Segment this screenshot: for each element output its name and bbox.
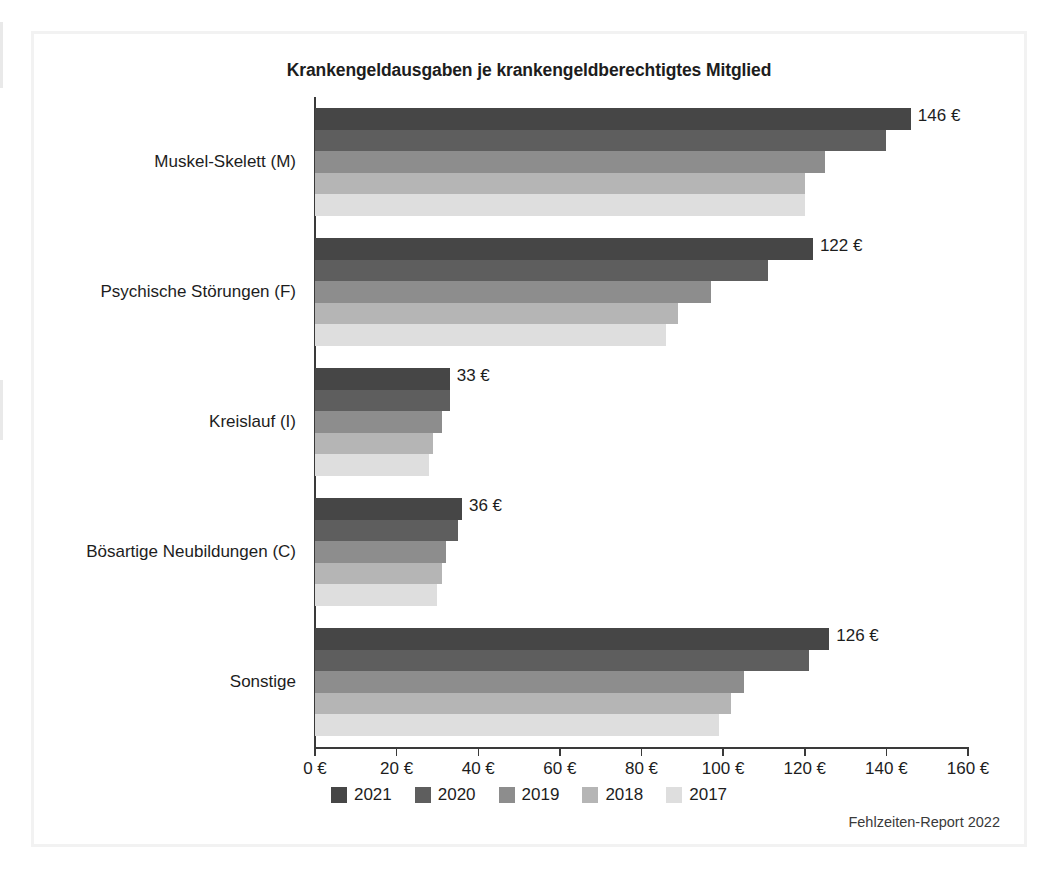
bar-row: 126 €	[315, 628, 968, 650]
bar-row	[315, 281, 968, 303]
bar-group: 122 €	[315, 238, 968, 346]
chart-title: Krankengeldausgaben je krankengeldberech…	[34, 60, 1024, 81]
x-axis-tick-label: 100 €	[702, 759, 745, 779]
page-edge-rule	[0, 380, 3, 440]
bar-2018	[315, 563, 442, 585]
bar-group: 126 €	[315, 628, 968, 736]
bar-row	[315, 671, 968, 693]
legend-item-2018[interactable]: 2018	[582, 785, 643, 805]
legend-item-2017[interactable]: 2017	[666, 785, 727, 805]
legend-swatch-icon	[666, 787, 682, 803]
bar-row	[315, 584, 968, 606]
bar-2017	[315, 714, 719, 736]
bar-row	[315, 563, 968, 585]
bar-2019	[315, 411, 442, 433]
x-axis-tick-label: 160 €	[947, 759, 990, 779]
bar-2019	[315, 281, 711, 303]
bar-2019	[315, 541, 446, 563]
bar-row	[315, 650, 968, 672]
bar-2018	[315, 433, 433, 455]
legend-item-2020[interactable]: 2020	[415, 785, 476, 805]
x-axis-tick-label: 140 €	[865, 759, 908, 779]
legend-item-2021[interactable]: 2021	[331, 785, 392, 805]
legend-label: 2017	[689, 785, 727, 805]
bar-row	[315, 411, 968, 433]
bar-2021	[315, 238, 813, 260]
bar-2019	[315, 671, 744, 693]
bar-row	[315, 173, 968, 195]
bar-2018	[315, 303, 678, 325]
category-label: Muskel-Skelett (M)	[154, 152, 296, 172]
chart-legend: 20212020201920182017	[34, 785, 1024, 805]
legend-label: 2021	[354, 785, 392, 805]
bar-row: 36 €	[315, 498, 968, 520]
x-axis-tick	[559, 747, 561, 756]
bar-2018	[315, 693, 731, 715]
bar-row	[315, 324, 968, 346]
legend-swatch-icon	[331, 787, 347, 803]
bar-row	[315, 693, 968, 715]
bar-group: 36 €	[315, 498, 968, 606]
category-axis-labels: Muskel-Skelett (M)Psychische Störungen (…	[34, 97, 296, 747]
bar-group: 33 €	[315, 368, 968, 476]
bar-2020	[315, 650, 809, 672]
bar-row	[315, 260, 968, 282]
bar-row	[315, 520, 968, 542]
bar-row: 33 €	[315, 368, 968, 390]
bar-row	[315, 390, 968, 412]
bar-row	[315, 130, 968, 152]
x-axis-tick-label: 120 €	[783, 759, 826, 779]
x-axis-tick	[314, 747, 316, 756]
bar-value-label: 126 €	[829, 626, 879, 646]
bar-2021	[315, 628, 829, 650]
bar-row	[315, 541, 968, 563]
bar-row	[315, 151, 968, 173]
figure-page: Krankengeldausgaben je krankengeldberech…	[0, 0, 1052, 880]
bar-2017	[315, 324, 666, 346]
bar-row	[315, 433, 968, 455]
bar-value-label: 36 €	[462, 496, 502, 516]
bar-2017	[315, 454, 429, 476]
bar-2018	[315, 173, 805, 195]
legend-label: 2018	[605, 785, 643, 805]
bar-2021	[315, 498, 462, 520]
x-axis-tick	[804, 747, 806, 756]
bar-2017	[315, 194, 805, 216]
legend-item-2019[interactable]: 2019	[499, 785, 560, 805]
bar-row	[315, 454, 968, 476]
x-axis-tick-label: 40 €	[462, 759, 495, 779]
bar-2020	[315, 130, 886, 152]
page-edge-rule	[0, 22, 3, 88]
legend-label: 2019	[522, 785, 560, 805]
bar-2020	[315, 260, 768, 282]
bar-2019	[315, 151, 825, 173]
bar-row: 122 €	[315, 238, 968, 260]
category-label: Psychische Störungen (F)	[100, 282, 296, 302]
bar-2020	[315, 520, 458, 542]
bar-value-label: 122 €	[813, 236, 863, 256]
bar-value-label: 146 €	[911, 106, 961, 126]
bar-value-label: 33 €	[450, 366, 490, 386]
chart-frame: Krankengeldausgaben je krankengeldberech…	[31, 31, 1027, 847]
source-note: Fehlzeiten-Report 2022	[848, 814, 1000, 830]
x-axis-tick	[478, 747, 480, 756]
x-axis-tick	[967, 747, 969, 756]
bar-row	[315, 194, 968, 216]
x-axis-tick	[722, 747, 724, 756]
legend-swatch-icon	[499, 787, 515, 803]
category-label: Bösartige Neubildungen (C)	[86, 542, 296, 562]
x-axis-tick-label: 20 €	[380, 759, 413, 779]
legend-swatch-icon	[582, 787, 598, 803]
bar-2017	[315, 584, 437, 606]
bar-group: 146 €	[315, 108, 968, 216]
x-axis-tick	[641, 747, 643, 756]
category-label: Sonstige	[230, 672, 296, 692]
category-label: Kreislauf (I)	[209, 412, 296, 432]
bar-2021	[315, 108, 911, 130]
bar-row	[315, 714, 968, 736]
x-axis-tick-label: 80 €	[625, 759, 658, 779]
x-axis-tick-label: 0 €	[303, 759, 327, 779]
x-axis-tick	[396, 747, 398, 756]
bar-row	[315, 303, 968, 325]
bar-row: 146 €	[315, 108, 968, 130]
